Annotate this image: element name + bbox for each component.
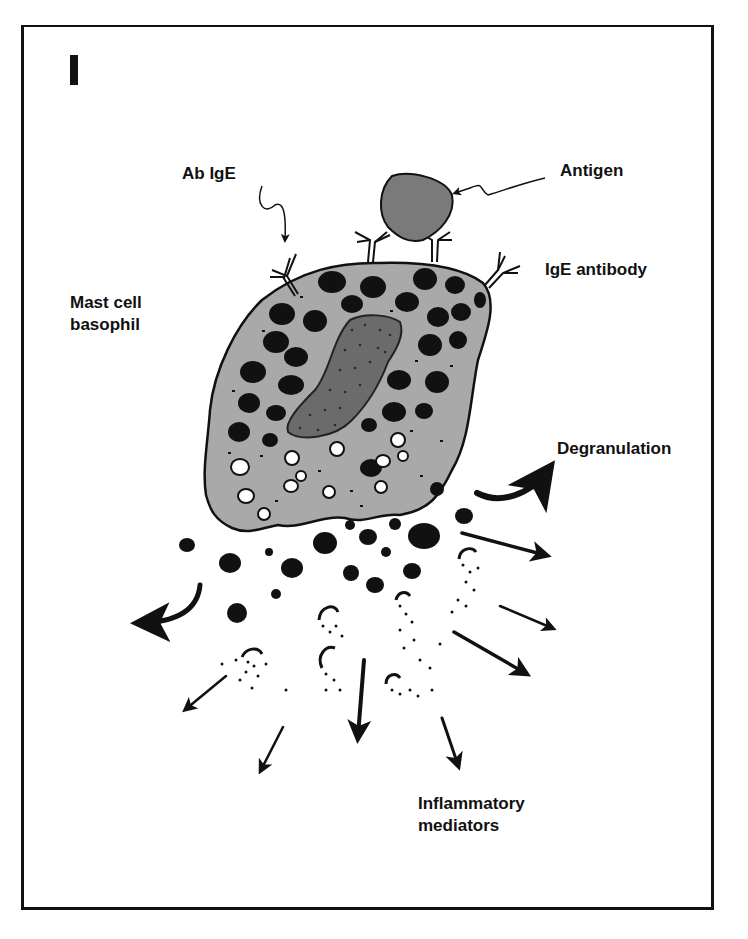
ige-antibody-label: IgE antibody — [545, 259, 647, 281]
mediator-release-arrows — [186, 533, 552, 770]
inflammatory-mediators-label: Inflammatory mediators — [418, 793, 525, 837]
mast-cell-basophil-label: Mast cell basophil — [70, 292, 142, 336]
ab-ige-pointer-arrow — [260, 186, 286, 240]
degranulation-label: Degranulation — [557, 438, 671, 460]
ab-ige-label: Ab IgE — [182, 163, 236, 185]
mast-cell-illustration — [0, 0, 748, 939]
antigen-pointer-arrow — [455, 178, 545, 195]
antigen-particle — [381, 174, 453, 241]
antigen-label: Antigen — [560, 160, 623, 182]
left-curved-arrow — [140, 585, 200, 623]
degranulation-curved-arrow — [477, 470, 548, 498]
